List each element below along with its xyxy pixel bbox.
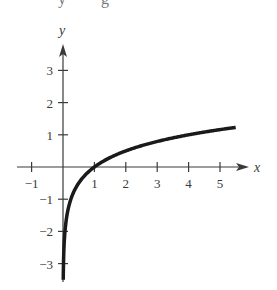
x-tick-label: 4 <box>185 176 192 191</box>
y-tick-label: −3 <box>39 257 53 272</box>
x-tick-label: −1 <box>25 176 39 191</box>
x-tick-label: 1 <box>91 176 98 191</box>
x-tick-label: 5 <box>217 176 224 191</box>
y-tick-label: 2 <box>47 96 54 111</box>
y-axis-label: y <box>57 23 66 38</box>
y-tick-label: 3 <box>47 63 54 78</box>
equation-fragment: g <box>101 0 109 8</box>
log-curve <box>63 127 235 279</box>
axes <box>17 44 249 282</box>
y-tick-label: −2 <box>39 224 53 239</box>
y-tick-label: 1 <box>47 128 54 143</box>
cut-off-equation: yg <box>58 0 109 8</box>
log-graph: yg −112345321−1−2−3 x y <box>0 0 277 290</box>
x-tick-label: 2 <box>123 176 130 191</box>
x-axis-label: x <box>253 160 261 175</box>
x-tick-label: 3 <box>154 176 161 191</box>
y-tick-label: −1 <box>39 192 53 207</box>
equation-fragment: y <box>58 0 66 8</box>
